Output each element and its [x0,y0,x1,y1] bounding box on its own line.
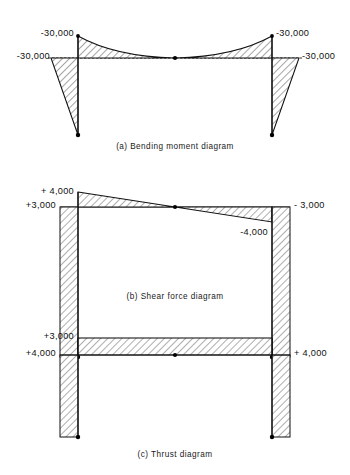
node-dot-base-left-a [76,133,80,137]
panel-a-bending-moment [48,34,302,137]
label-a-left-outer: -30,000 [0,51,50,61]
thrust-area-column-left [60,355,78,437]
moment-lobe-column-right [272,58,299,135]
moment-lobe-beam-left [78,36,175,58]
label-c-column-left: +4,000 [0,348,56,358]
node-dot-midspan-c [173,353,177,357]
thrust-area-beam [78,338,272,355]
label-b-column-right: - 3,000 [294,200,325,210]
node-dot-base-left-c [76,435,80,439]
label-a-left-top: -30,000 [14,28,74,38]
node-dot-beam-left-a [76,34,80,38]
moment-lobe-beam-right [175,36,272,58]
caption-panel-b: (b) Shear force diagram [0,292,350,301]
thrust-area-column-right [272,355,290,437]
label-b-column-left: +3,000 [0,200,56,210]
label-b-beam-right-bottom: -4,000 [208,227,268,237]
panel-b-shear-force [60,192,290,359]
diagram-canvas [0,0,350,475]
caption-panel-a: (a) Bending moment diagram [0,142,350,151]
node-dot-base-right-a [270,133,274,137]
shear-area-beam-left [78,192,175,207]
label-a-right-top: -30,000 [276,28,309,38]
shear-area-column-right [272,207,290,357]
label-c-column-right: + 4,000 [294,348,327,358]
caption-panel-c: (c) Thrust diagram [0,450,350,459]
label-a-right-outer: -30,000 [302,51,335,61]
panel-c-thrust [60,338,290,439]
force-diagram-figure: -30,000 -30,000 -30,000 -30,000 + 4,000 … [0,0,350,475]
node-dot-base-right-c [270,435,274,439]
node-dot-beam-right-a [270,34,274,38]
shear-area-beam-right [175,207,272,222]
node-dot-midspan-a [173,56,177,60]
node-dot-midspan-b [173,205,177,209]
moment-lobe-column-left [51,58,78,135]
label-b-beam-left-top: + 4,000 [14,186,74,196]
label-c-beam-top: +3,000 [14,331,74,341]
